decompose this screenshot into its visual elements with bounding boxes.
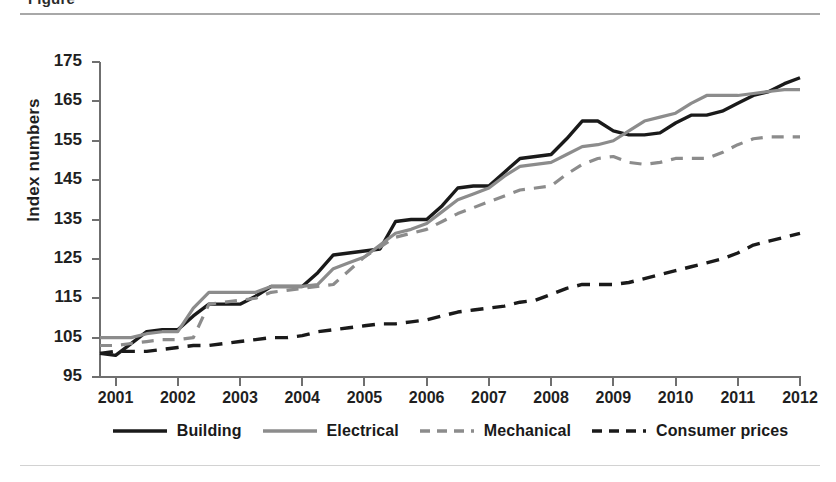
series-line-consumer-prices xyxy=(100,233,800,353)
y-tick-mark xyxy=(92,219,100,221)
y-tick-label-155: 155 xyxy=(24,130,82,150)
legend-label: Building xyxy=(177,422,242,440)
x-tick-label-2005: 2005 xyxy=(329,389,399,407)
legend-swatch-electrical-icon xyxy=(262,424,318,438)
legend-item-electrical[interactable]: Electrical xyxy=(262,422,399,440)
x-tick-label-2008: 2008 xyxy=(516,389,586,407)
top-divider-rule xyxy=(20,13,820,15)
x-tick-label-2007: 2007 xyxy=(454,389,524,407)
x-tick-mark xyxy=(799,378,801,386)
x-tick-label-2012: 2012 xyxy=(765,389,835,407)
legend-swatch-consumer-prices-icon xyxy=(591,424,647,438)
y-tick-mark xyxy=(92,140,100,142)
legend-item-mechanical[interactable]: Mechanical xyxy=(419,422,571,440)
y-tick-label-145: 145 xyxy=(24,169,82,189)
y-tick-label-115: 115 xyxy=(24,287,82,307)
legend-label: Consumer prices xyxy=(656,422,788,440)
y-tick-mark xyxy=(92,337,100,339)
x-tick-label-2002: 2002 xyxy=(143,389,213,407)
x-tick-label-2004: 2004 xyxy=(267,389,337,407)
y-tick-mark xyxy=(92,297,100,299)
x-tick-label-2009: 2009 xyxy=(578,389,648,407)
y-tick-label-105: 105 xyxy=(24,327,82,347)
x-tick-mark xyxy=(177,378,179,386)
bottom-divider-rule xyxy=(20,465,820,466)
series-lines xyxy=(100,62,800,377)
figure-container: Figure Index numbers 9510511512513514515… xyxy=(0,0,836,482)
chart-legend: BuildingElectricalMechanicalConsumer pri… xyxy=(100,418,800,444)
x-tick-mark xyxy=(488,378,490,386)
x-tick-mark xyxy=(612,378,614,386)
y-tick-mark xyxy=(92,179,100,181)
x-tick-mark xyxy=(550,378,552,386)
series-line-electrical xyxy=(100,90,800,338)
x-tick-mark xyxy=(363,378,365,386)
y-tick-label-165: 165 xyxy=(24,90,82,110)
legend-swatch-building-icon xyxy=(112,424,168,438)
plot-area xyxy=(100,62,800,377)
x-tick-label-2006: 2006 xyxy=(392,389,462,407)
x-tick-mark xyxy=(675,378,677,386)
clipped-heading-fragment: Figure xyxy=(28,0,75,7)
y-tick-label-125: 125 xyxy=(24,248,82,268)
legend-swatch-mechanical-icon xyxy=(419,424,475,438)
x-tick-label-2001: 2001 xyxy=(81,389,151,407)
y-tick-label-175: 175 xyxy=(24,51,82,71)
y-tick-label-135: 135 xyxy=(24,209,82,229)
legend-label: Electrical xyxy=(327,422,399,440)
x-tick-mark xyxy=(239,378,241,386)
x-tick-mark xyxy=(301,378,303,386)
y-tick-label-95: 95 xyxy=(24,366,82,386)
legend-item-building[interactable]: Building xyxy=(112,422,242,440)
x-tick-label-2010: 2010 xyxy=(641,389,711,407)
y-tick-mark xyxy=(92,376,100,378)
legend-label: Mechanical xyxy=(484,422,571,440)
y-tick-mark xyxy=(92,61,100,63)
x-tick-label-2003: 2003 xyxy=(205,389,275,407)
x-tick-mark xyxy=(737,378,739,386)
y-tick-mark xyxy=(92,258,100,260)
y-tick-mark xyxy=(92,100,100,102)
legend-item-consumer-prices[interactable]: Consumer prices xyxy=(591,422,788,440)
x-tick-mark xyxy=(115,378,117,386)
x-tick-mark xyxy=(426,378,428,386)
x-tick-label-2011: 2011 xyxy=(703,389,773,407)
